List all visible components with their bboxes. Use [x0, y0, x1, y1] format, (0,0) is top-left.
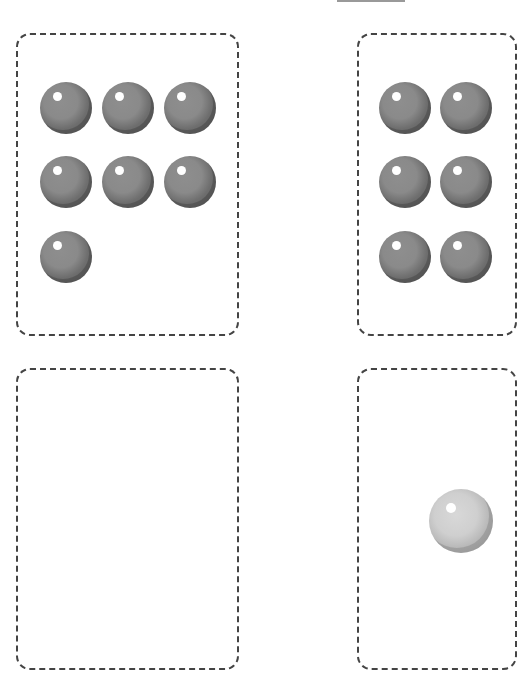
ball-icon — [102, 82, 154, 134]
cropped-heading — [0, 0, 491, 2]
ball-icon — [379, 231, 431, 283]
answer-blank-line[interactable] — [337, 0, 405, 2]
ball-icon — [40, 82, 92, 134]
ball-icon — [440, 156, 492, 208]
ball-icon — [40, 231, 92, 283]
ball-icon — [164, 156, 216, 208]
ball-icon — [102, 156, 154, 208]
ball-icon — [379, 156, 431, 208]
ball-icon — [40, 156, 92, 208]
light-ball-icon — [429, 489, 493, 553]
ball-icon — [379, 82, 431, 134]
counting-card-3-empty[interactable] — [16, 368, 239, 670]
ball-icon — [440, 231, 492, 283]
ball-icon — [440, 82, 492, 134]
ball-icon — [164, 82, 216, 134]
